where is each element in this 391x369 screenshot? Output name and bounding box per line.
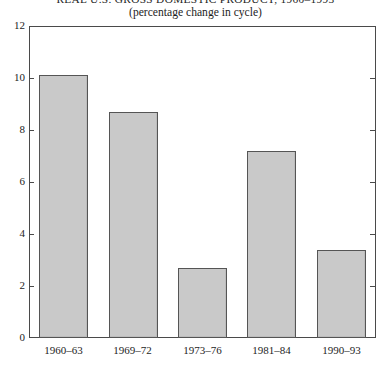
y-tick-label: 4 [1,228,25,239]
y-tick-mark-right [370,130,375,131]
y-tick-mark-left [29,130,34,131]
y-tick-label: 2 [1,280,25,291]
y-tick-mark-left [29,78,34,79]
y-tick-mark-left [29,286,34,287]
y-tick-mark-right [370,78,375,79]
chart-subtitle: (percentage change in cycle) [0,6,391,20]
bar [247,151,296,338]
x-tick-label: 1990–93 [307,344,376,356]
y-tick-label: 0 [1,332,25,343]
y-tick-label: 12 [1,20,25,31]
y-tick-mark-right [370,182,375,183]
chart-figure: REAL U.S. GROSS DOMESTIC PRODUCT, 1960–1… [0,0,391,369]
x-tick-label: 1973–76 [168,344,237,356]
y-tick-mark-right [370,234,375,235]
bar [39,75,88,338]
x-tick-label: 1981–84 [237,344,306,356]
y-tick-label: 8 [1,124,25,135]
x-tick-label: 1960–63 [29,344,98,356]
y-tick-label: 6 [1,176,25,187]
y-tick-mark-left [29,234,34,235]
bar [178,268,227,338]
bar [317,250,366,338]
x-tick-label: 1969–72 [98,344,167,356]
y-axis-labels: 024681012 [0,0,25,369]
bar [109,112,158,338]
y-tick-label: 10 [1,72,25,83]
y-tick-mark-left [29,182,34,183]
y-tick-mark-right [370,286,375,287]
title-block: REAL U.S. GROSS DOMESTIC PRODUCT, 1960–1… [0,0,391,20]
